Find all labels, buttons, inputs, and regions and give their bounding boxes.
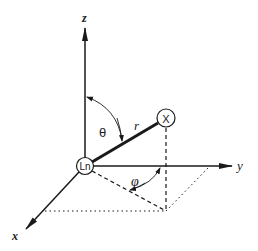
point-node: X [157, 109, 175, 127]
projection-dotted-line-diagonal [166, 167, 209, 211]
y-axis-label: y [235, 158, 243, 173]
origin-node-label: Ln [79, 161, 90, 172]
projection-dashed-radial [92, 171, 166, 211]
x-axis [26, 172, 79, 229]
x-axis-label: x [11, 229, 18, 243]
z-axis-label: z [81, 11, 87, 25]
point-node-label: X [162, 113, 170, 125]
phi-label: φ [131, 174, 139, 189]
theta-label: θ [99, 125, 106, 140]
spherical-coordinates-diagram: z y x r θ φ Ln X [0, 0, 258, 251]
origin-node: Ln [77, 158, 94, 175]
radius-label: r [134, 118, 140, 133]
